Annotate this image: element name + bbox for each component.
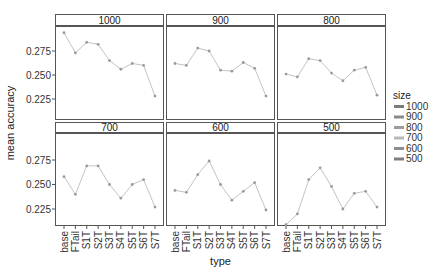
data-point xyxy=(265,95,268,98)
data-point xyxy=(142,178,145,181)
facet-panel xyxy=(167,134,275,226)
legend-swatch-900 xyxy=(394,116,404,119)
y-tick-label: 0.275 xyxy=(26,46,51,57)
x-tick-label: S4T xyxy=(226,231,237,249)
x-axis-title: type xyxy=(210,255,231,267)
x-tick-label: S1T xyxy=(192,231,203,249)
legend-swatch-800 xyxy=(394,126,404,129)
legend-label: 900 xyxy=(406,111,423,122)
x-tick-label: S3T xyxy=(215,231,226,249)
x-tick-label: FTail xyxy=(181,231,192,252)
x-tick-label: S6T xyxy=(360,231,371,249)
facet-panel xyxy=(56,27,164,120)
x-tick-label: S2T xyxy=(93,231,104,249)
data-point xyxy=(174,189,177,192)
facet-label: 500 xyxy=(323,122,340,133)
data-point xyxy=(74,193,77,196)
data-point xyxy=(330,72,333,75)
data-point xyxy=(97,164,100,167)
data-point xyxy=(154,95,157,98)
y-axis-title: mean accuracy xyxy=(4,85,16,160)
data-point xyxy=(108,183,111,186)
legend-swatch-600 xyxy=(394,147,404,150)
data-point xyxy=(230,70,233,73)
x-tick-label: S5T xyxy=(238,231,249,249)
facet-panel xyxy=(56,134,164,226)
data-point xyxy=(208,160,211,163)
facet-label: 1000 xyxy=(98,15,121,26)
legend-swatch-500 xyxy=(394,158,404,161)
facet-label: 800 xyxy=(323,15,340,26)
y-tick-label: 0.275 xyxy=(26,155,51,166)
data-point xyxy=(131,183,134,186)
y-tick-label: 0.225 xyxy=(26,94,51,105)
data-point xyxy=(74,52,77,55)
data-point xyxy=(253,181,256,184)
data-point xyxy=(307,178,310,181)
legend-swatch-1000 xyxy=(394,105,404,108)
data-point xyxy=(219,183,222,186)
data-point xyxy=(376,206,379,209)
data-point xyxy=(364,190,367,193)
data-point xyxy=(219,69,222,72)
x-tick-label: S7T xyxy=(261,231,272,249)
data-point xyxy=(174,62,177,65)
data-point xyxy=(296,213,299,216)
data-point xyxy=(108,59,111,62)
x-tick-label: base xyxy=(281,231,292,253)
x-tick-label: S4T xyxy=(115,231,126,249)
data-point xyxy=(119,68,122,71)
data-point xyxy=(185,191,188,194)
data-point xyxy=(242,190,245,193)
x-tick-label: S1T xyxy=(81,231,92,249)
data-point xyxy=(319,166,322,169)
y-tick-label: 0.225 xyxy=(26,204,51,215)
data-point xyxy=(265,209,268,212)
data-point xyxy=(285,73,288,76)
data-point xyxy=(208,50,211,53)
facet-panel xyxy=(278,134,386,226)
data-point xyxy=(230,199,233,202)
facet-label: 600 xyxy=(212,122,229,133)
data-point xyxy=(196,173,199,176)
x-tick-label: S5T xyxy=(349,231,360,249)
data-point xyxy=(285,223,288,226)
x-tick-label: base xyxy=(170,231,181,253)
data-point xyxy=(63,175,66,178)
data-point xyxy=(319,59,322,62)
data-point xyxy=(97,43,100,46)
x-tick-label: S3T xyxy=(326,231,337,249)
x-tick-label: S1T xyxy=(303,231,314,249)
legend-label: 600 xyxy=(406,143,423,154)
data-point xyxy=(131,62,134,65)
data-point xyxy=(63,31,66,34)
data-point xyxy=(242,61,245,64)
data-point xyxy=(330,185,333,188)
data-point xyxy=(353,192,356,195)
data-point xyxy=(341,79,344,82)
legend-label: 500 xyxy=(406,153,423,164)
facet-label: 900 xyxy=(212,15,229,26)
data-point xyxy=(376,94,379,97)
data-point xyxy=(196,47,199,50)
x-tick-label: S6T xyxy=(138,231,149,249)
data-point xyxy=(85,164,88,167)
data-point xyxy=(353,69,356,72)
legend-label: 800 xyxy=(406,122,423,133)
data-point xyxy=(85,41,88,44)
data-point xyxy=(307,57,310,60)
data-point xyxy=(296,76,299,79)
legend-title: size xyxy=(393,90,411,101)
y-tick-label: 0.250 xyxy=(26,70,51,81)
data-point xyxy=(119,197,122,200)
facet-label: 700 xyxy=(101,122,118,133)
x-tick-label: FTail xyxy=(70,231,81,252)
facet-panel xyxy=(167,27,275,120)
x-tick-label: S5T xyxy=(127,231,138,249)
legend-label: 1000 xyxy=(406,101,429,112)
data-point xyxy=(142,64,145,67)
faceted-line-chart: 10000.2250.2500.2759008007000.2250.2500.… xyxy=(0,0,439,279)
data-point xyxy=(253,67,256,70)
x-tick-label: S6T xyxy=(249,231,260,249)
data-point xyxy=(364,66,367,69)
